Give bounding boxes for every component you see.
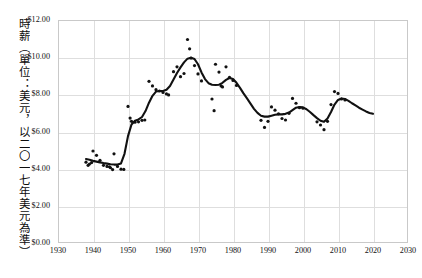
x-axis-tick: 1970 [178,246,218,255]
data-point [84,161,87,164]
x-axis-tick: 1950 [108,246,148,255]
data-point [95,154,98,157]
data-point [189,57,192,60]
data-point [263,126,266,129]
data-point [329,103,332,106]
data-point [143,118,146,121]
data-point [284,118,287,121]
data-point [91,149,94,152]
data-point [179,75,182,78]
data-point [333,90,336,93]
x-axis-tick: 1980 [213,246,253,255]
x-axis-tick: 1940 [73,246,113,255]
x-axis-tick: 1930 [38,246,78,255]
data-point [130,120,133,123]
data-point [336,92,339,95]
data-point [119,168,122,171]
data-point [126,105,129,108]
data-layer [58,20,408,243]
data-point [90,161,93,164]
data-point [326,120,329,123]
data-point [224,65,227,68]
data-point [112,152,115,155]
data-point [98,159,101,162]
data-point [322,128,325,131]
data-point [140,119,143,122]
data-point [161,91,164,94]
x-axis-tick: 2010 [318,246,358,255]
data-point [228,76,231,79]
data-point [172,70,175,73]
data-point [214,63,217,66]
chart-container: 時薪（單位：美元，以二〇一七年美元為準） $0.00$2.00$4.00$6.0… [0,0,422,278]
data-point [151,84,154,87]
data-point [280,117,283,120]
data-point [343,98,346,101]
trend-line [86,58,373,165]
data-point [259,119,262,122]
data-point [167,93,170,96]
x-axis-tick: 2020 [353,246,393,255]
x-axis-tick: 2030 [388,246,422,255]
data-point [221,85,224,88]
data-point [193,64,196,67]
data-point [137,120,140,123]
data-point [270,105,273,108]
x-axis-tick: 1990 [248,246,288,255]
x-axis-tick: 1960 [143,246,183,255]
data-point [319,123,322,126]
x-axis-tick: 2000 [283,246,323,255]
data-point [196,72,199,75]
data-point [213,109,216,112]
data-point [133,121,136,124]
data-point [102,164,105,167]
data-point [231,79,234,82]
data-point [235,84,238,87]
data-point [273,109,276,112]
data-point [122,168,125,171]
data-point [210,97,213,100]
data-point [294,102,297,105]
data-point [154,88,157,91]
data-point [287,112,290,115]
data-point [266,120,269,123]
data-point [175,65,178,68]
data-point [340,97,343,100]
data-point [298,106,301,109]
chart-svg [58,20,408,243]
data-point [158,89,161,92]
data-point [116,165,119,168]
data-point [301,107,304,110]
data-point [186,38,189,41]
data-point [111,168,114,171]
data-point [147,80,150,83]
data-point [188,47,191,50]
data-point [291,97,294,100]
data-point [315,120,318,123]
data-point [182,72,185,75]
data-point [217,70,220,73]
data-point [200,79,203,82]
data-point [129,117,132,120]
data-point [277,112,280,115]
